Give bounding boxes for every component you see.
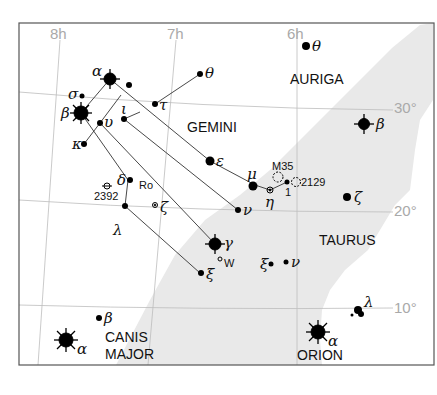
milky-way-band — [116, 23, 433, 365]
label-ro: Ro — [139, 180, 153, 191]
label-ngc2129: 2129 — [301, 177, 325, 188]
star-chart — [0, 0, 437, 395]
dec-label-20: 20° — [394, 203, 417, 218]
label-gem-beta: β — [61, 106, 70, 121]
label-gem-tau: τ — [159, 98, 167, 113]
label-gem-kappa: κ — [72, 137, 82, 152]
label-ngc2392: 2392 — [94, 191, 118, 202]
label-gem-delta: δ — [117, 173, 126, 188]
label-tau-beta: β — [376, 117, 385, 132]
constellation-orion: ORION — [297, 348, 343, 362]
label-ori-alpha: α — [328, 334, 338, 349]
label-gem-mu: μ — [247, 167, 257, 182]
label-aur-theta: θ — [312, 39, 321, 54]
label-gem-gamma: γ — [224, 236, 233, 251]
dec-label-10: 10° — [394, 300, 417, 315]
ra-label-6h: 6h — [287, 26, 304, 41]
constellation-major: MAJOR — [105, 347, 154, 361]
label-ori-nu: ν — [291, 255, 300, 270]
label-cma-alpha: α — [77, 342, 87, 357]
label-gem-xi: ξ — [206, 267, 214, 282]
constellation-auriga: AURIGA — [290, 72, 344, 86]
dec-label-30: 30° — [394, 100, 417, 115]
ra-label-8h: 8h — [50, 26, 67, 41]
label-gem-alpha: α — [92, 64, 102, 79]
label-gem-nu: ν — [243, 203, 252, 218]
label-tau-zeta: ζ — [354, 190, 362, 205]
label-m35: M35 — [272, 161, 293, 172]
label-gem-upsilon: υ — [104, 115, 113, 130]
label-gem-1: 1 — [285, 187, 291, 198]
label-w: W — [224, 258, 234, 269]
label-gem-iota: ι — [121, 102, 127, 117]
label-gem-zeta: ζ — [160, 200, 168, 215]
label-ori-lambda: λ — [364, 295, 374, 310]
constellation-gemini: GEMINI — [187, 120, 237, 134]
ra-label-7h: 7h — [167, 26, 184, 41]
label-cma-beta: β — [104, 311, 113, 326]
constellation-taurus: TAURUS — [319, 233, 376, 247]
label-ori-xi: ξ — [260, 257, 268, 272]
label-gem-lambda: λ — [113, 223, 123, 238]
label-gem-sigma: σ — [68, 87, 78, 102]
label-gem-eta: η — [265, 195, 274, 210]
label-gem-epsilon: ε — [216, 154, 224, 169]
constellation-canis: CANIS — [105, 330, 148, 344]
label-gem-theta: θ — [205, 66, 214, 81]
